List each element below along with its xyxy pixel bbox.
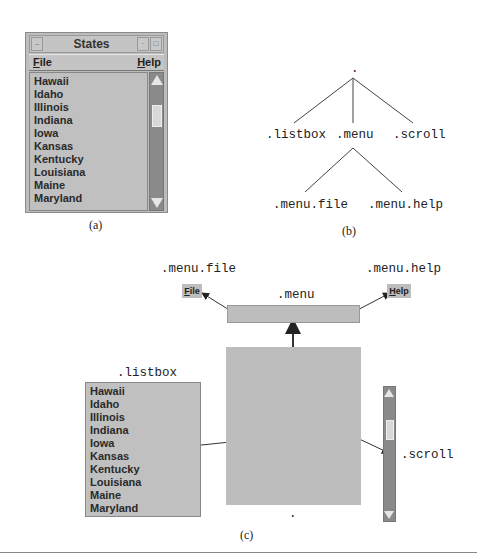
label-menu-file: .menu.file <box>161 262 236 276</box>
list-item[interactable]: Kansas <box>86 450 200 463</box>
list-item[interactable]: Illinois <box>86 411 200 424</box>
tree-node-menu-file: .menu.file <box>273 198 348 212</box>
list-item[interactable]: Maine <box>86 489 200 502</box>
root-frame <box>226 347 361 505</box>
label-listbox: .listbox <box>117 366 177 380</box>
tree-node-menu-help: .menu.help <box>368 198 443 212</box>
tree-node-scroll: .scroll <box>393 128 446 142</box>
tree-node-listbox: .listbox <box>266 128 326 142</box>
label-scroll: .scroll <box>401 448 454 462</box>
list-item[interactable]: Kentucky <box>86 463 200 476</box>
list-item[interactable]: Indiana <box>86 424 200 437</box>
list-item[interactable]: Hawaii <box>86 385 200 398</box>
list-item[interactable]: Louisiana <box>86 476 200 489</box>
bottom-rule <box>0 552 477 553</box>
menu-frame <box>227 305 360 323</box>
scroll-widget[interactable] <box>383 386 396 522</box>
label-menu: .menu <box>277 288 315 302</box>
help-menubutton[interactable]: Help <box>387 284 411 298</box>
scroll-up-icon[interactable] <box>384 389 394 397</box>
caption-b: (b) <box>342 224 356 239</box>
listbox-widget[interactable]: Hawaii Idaho Illinois Indiana Iowa Kansa… <box>85 382 201 517</box>
file-menubutton[interactable]: File <box>182 284 202 298</box>
label-menu-help: .menu.help <box>366 262 441 276</box>
tree-root: . <box>351 62 359 76</box>
list-item[interactable]: Idaho <box>86 398 200 411</box>
root-dot-label: . <box>289 507 297 521</box>
caption-c: (c) <box>240 528 253 543</box>
scroll-thumb[interactable] <box>386 420 394 440</box>
list-item[interactable]: Iowa <box>86 437 200 450</box>
tree-node-menu: .menu <box>336 128 374 142</box>
scroll-down-icon[interactable] <box>384 511 394 519</box>
list-item[interactable]: Maryland <box>86 502 200 515</box>
